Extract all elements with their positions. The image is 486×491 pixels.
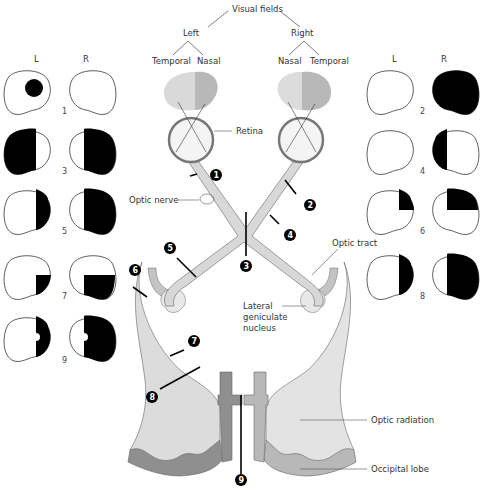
svg-text:9: 9 [62, 356, 67, 365]
svg-text:4: 4 [420, 167, 425, 176]
field-right-eye-header-2: R [441, 54, 447, 64]
field-left-eye-header-2: L [392, 54, 397, 64]
visual-fields-header: Visual fields Left Right Temporal Nasal … [151, 4, 349, 66]
svg-text:5: 5 [62, 227, 67, 236]
svg-text:3: 3 [62, 167, 67, 176]
svg-text:7: 7 [192, 337, 198, 346]
field-defect-1: 1 [4, 71, 116, 116]
left-field-label: Left [183, 28, 200, 38]
lesion-badge-6[interactable]: 6 [129, 264, 141, 276]
left-eye [169, 118, 213, 162]
lgn-label-2: geniculate [243, 312, 288, 322]
visual-fields-title: Visual fields [232, 4, 283, 14]
svg-text:1: 1 [214, 171, 220, 180]
lesion-badge-2[interactable]: 2 [304, 199, 316, 211]
svg-text:8: 8 [420, 292, 425, 301]
optic-radiation-label: Optic radiation [371, 415, 434, 425]
lesion-badge-9[interactable]: 9 [235, 474, 247, 486]
svg-text:1: 1 [62, 107, 67, 116]
field-defect-6: 6 [367, 189, 479, 236]
right-visual-field [278, 72, 331, 111]
svg-text:7: 7 [62, 292, 67, 301]
lesion-badge-8[interactable]: 8 [146, 391, 158, 403]
lesion-badge-3[interactable]: 3 [240, 260, 252, 272]
optic-nerve-label: Optic nerve [129, 195, 179, 205]
svg-text:9: 9 [239, 476, 245, 485]
left-nasal-label: Nasal [197, 56, 221, 66]
field-right-eye-header: R [83, 54, 89, 64]
visual-pathway-diagram: Visual fields Left Right Temporal Nasal … [0, 0, 486, 491]
field-left-eye-header: L [34, 54, 39, 64]
lgn-label-3: nucleus [243, 323, 276, 333]
field-defect-3: 3 [4, 129, 116, 176]
field-defect-7: 7 [4, 256, 116, 301]
right-temporal-label: Temporal [309, 56, 349, 66]
field-defect-8: 8 [367, 254, 479, 301]
field-defect-2: 2 [367, 71, 479, 116]
svg-text:2: 2 [308, 201, 314, 210]
svg-text:4: 4 [288, 231, 294, 240]
field-defect-9: 9 [4, 316, 116, 365]
svg-text:6: 6 [420, 227, 425, 236]
right-eye [279, 118, 323, 162]
svg-text:6: 6 [133, 266, 139, 275]
lgn-label-1: Lateral [243, 301, 273, 311]
left-temporal-label: Temporal [151, 56, 191, 66]
retina-label: Retina [236, 126, 263, 136]
lesion-badge-5[interactable]: 5 [164, 242, 176, 254]
lesion-badge-4[interactable]: 4 [284, 229, 296, 241]
field-defect-4: 4 [367, 129, 479, 176]
svg-text:8: 8 [150, 393, 156, 402]
field-defect-5: 5 [4, 189, 116, 236]
occipital-lobe-label: Occipital lobe [371, 464, 429, 474]
optic-tract-label: Optic tract [332, 238, 378, 248]
svg-text:3: 3 [244, 262, 250, 271]
lesion-badge-7[interactable]: 7 [188, 335, 200, 347]
svg-text:2: 2 [420, 107, 425, 116]
left-visual-field [164, 72, 218, 111]
lesion-badge-1[interactable]: 1 [210, 169, 222, 181]
svg-text:5: 5 [168, 244, 174, 253]
right-nasal-label: Nasal [278, 56, 302, 66]
right-field-label: Right [291, 28, 314, 38]
